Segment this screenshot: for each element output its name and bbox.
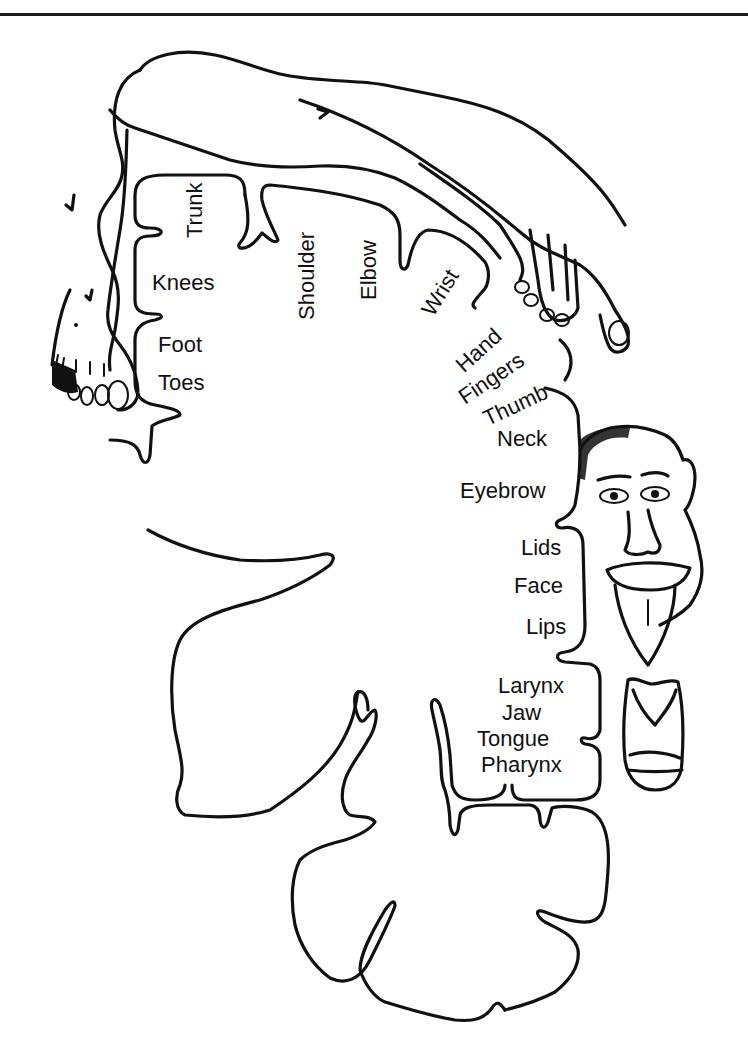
label-shoulder: Shoulder	[296, 232, 318, 320]
larynx-illustration	[624, 679, 683, 790]
leg-illustration	[52, 52, 625, 410]
label-tongue: Tongue	[477, 728, 549, 750]
label-toes: Toes	[158, 372, 204, 394]
label-eyebrow: Eyebrow	[460, 480, 546, 502]
label-elbow: Elbow	[358, 240, 380, 300]
face-illustration	[578, 426, 702, 665]
label-larynx: Larynx	[498, 675, 564, 697]
label-knees: Knees	[152, 272, 214, 294]
arm-hand-illustration	[300, 100, 629, 352]
label-pharynx: Pharynx	[481, 754, 562, 776]
label-face: Face	[514, 575, 563, 597]
label-jaw: Jaw	[502, 702, 541, 724]
label-lips: Lips	[526, 616, 566, 638]
label-lids: Lids	[521, 537, 561, 559]
label-trunk: Trunk	[184, 183, 206, 238]
label-foot: Foot	[158, 334, 202, 356]
label-neck: Neck	[497, 428, 547, 450]
homunculus-drawing	[0, 0, 748, 1063]
